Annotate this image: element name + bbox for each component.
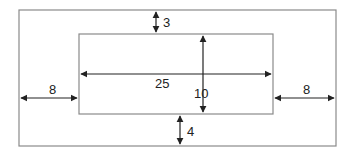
- outer-rectangle: [19, 10, 336, 146]
- diagram-canvas: 3 4 8 8 25 10: [0, 0, 355, 156]
- inner-height-label: 10: [194, 86, 208, 101]
- left-margin-label: 8: [49, 82, 56, 97]
- bottom-margin-label: 4: [187, 124, 194, 139]
- top-margin-label: 3: [163, 15, 170, 30]
- right-margin-label: 8: [303, 82, 310, 97]
- inner-width-label: 25: [155, 76, 169, 91]
